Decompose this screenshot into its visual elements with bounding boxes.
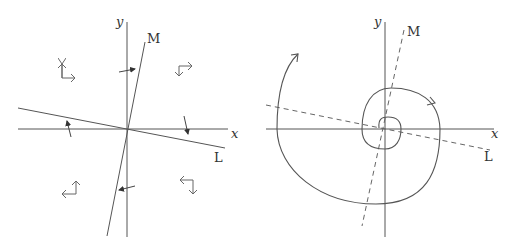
y-axis-label: y xyxy=(373,14,382,29)
line-m-label: M xyxy=(407,24,420,39)
line-l xyxy=(18,108,225,148)
right-diagram-canvas: y x M L xyxy=(258,0,516,249)
x-axis-label: x xyxy=(231,126,239,141)
line-l-label: L xyxy=(484,149,493,164)
line-l-dashed xyxy=(266,105,490,150)
direction-right-down-icon xyxy=(175,62,192,76)
direction-up-left-icon xyxy=(62,181,80,198)
direction-up-right-icon xyxy=(58,64,75,82)
y-axis-label: y xyxy=(115,14,124,29)
left-phase-diagram: y x M L xyxy=(0,0,258,249)
right-phase-diagram: y x M L xyxy=(258,0,516,249)
spiral-arrow-icon xyxy=(427,97,435,105)
x-axis-label: x xyxy=(491,126,499,141)
left-diagram-canvas: y x M L xyxy=(0,0,258,249)
line-m-label: M xyxy=(147,31,160,46)
line-l-label: L xyxy=(214,150,223,165)
arrow-icon xyxy=(184,116,188,134)
direction-left-down-icon xyxy=(180,176,197,194)
